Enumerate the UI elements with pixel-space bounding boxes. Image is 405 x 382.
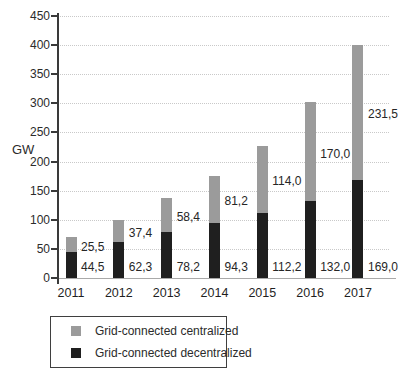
gridline-200	[58, 162, 389, 163]
bar-centralized-2014	[209, 176, 220, 223]
bar-decentralized-2012	[113, 242, 124, 278]
bar-decentralized-2016	[305, 201, 316, 278]
gridline-50	[58, 249, 389, 250]
legend-swatch-icon	[71, 326, 81, 336]
bar-centralized-2017	[352, 45, 363, 180]
x-axis-label-2013: 2013	[143, 287, 191, 300]
value-label-centralized-2012: 37,4	[129, 227, 152, 239]
value-label-decentralized-2016: 132,0	[320, 261, 350, 273]
bar-centralized-2011	[66, 237, 77, 252]
value-label-centralized-2014: 81,2	[224, 195, 247, 207]
gridline-450	[58, 16, 389, 17]
y-axis-tick-label: 350	[12, 68, 50, 80]
value-label-decentralized-2012: 62,3	[129, 261, 152, 273]
x-axis-line	[58, 278, 396, 279]
legend-swatch-icon	[71, 348, 81, 358]
y-axis-tick-label: 200	[12, 156, 50, 168]
legend-label: Grid-connected centralized	[95, 324, 238, 338]
x-axis-label-2016: 2016	[286, 287, 334, 300]
gridline-250	[58, 132, 389, 133]
bar-centralized-2012	[113, 220, 124, 242]
bar-decentralized-2014	[209, 223, 220, 278]
value-label-decentralized-2017: 169,0	[368, 261, 398, 273]
bar-decentralized-2017	[352, 180, 363, 278]
y-axis-tick-label: 400	[12, 39, 50, 51]
value-label-centralized-2016: 170,0	[320, 148, 350, 160]
y-axis-tick-label: 100	[12, 214, 50, 226]
stacked-bar-chart: GW 05010015020025030035040045025,544,520…	[0, 0, 405, 382]
x-axis-label-2014: 2014	[190, 287, 238, 300]
value-label-centralized-2013: 58,4	[177, 211, 200, 223]
legend: Grid-connected centralizedGrid-connected…	[50, 316, 227, 368]
y-axis-line	[57, 13, 59, 284]
value-label-decentralized-2013: 78,2	[177, 261, 200, 273]
value-label-decentralized-2015: 112,2	[272, 261, 301, 273]
y-axis-tick-label: 150	[12, 185, 50, 197]
bar-decentralized-2013	[161, 232, 172, 278]
gridline-100	[58, 220, 389, 221]
bar-centralized-2013	[161, 198, 172, 232]
value-label-decentralized-2014: 94,3	[224, 261, 247, 273]
x-axis-label-2011: 2011	[47, 287, 95, 300]
y-axis-tick-label: 300	[12, 97, 50, 109]
gridline-350	[58, 74, 389, 75]
value-label-centralized-2015: 114,0	[272, 175, 301, 187]
y-axis-tick-label: 250	[12, 126, 50, 138]
gridline-400	[58, 45, 389, 46]
x-axis-label-2017: 2017	[334, 287, 382, 300]
bar-centralized-2015	[257, 146, 268, 212]
legend-row: Grid-connected decentralized	[71, 346, 226, 360]
x-axis-label-2012: 2012	[95, 287, 143, 300]
x-axis-label-2015: 2015	[238, 287, 286, 300]
bar-centralized-2016	[305, 102, 316, 201]
legend-row: Grid-connected centralized	[71, 324, 226, 338]
value-label-centralized-2011: 25,5	[81, 241, 104, 253]
y-axis-tick-label: 50	[12, 243, 50, 255]
value-label-centralized-2017: 231,5	[368, 108, 398, 120]
legend-label: Grid-connected decentralized	[95, 346, 252, 360]
y-axis-tick-label: 450	[12, 10, 50, 22]
gridline-300	[58, 103, 389, 104]
y-axis-tick-label: 0	[12, 272, 50, 284]
value-label-decentralized-2011: 44,5	[81, 261, 104, 273]
gridline-150	[58, 191, 389, 192]
bar-decentralized-2015	[257, 213, 268, 278]
bar-decentralized-2011	[66, 252, 77, 278]
